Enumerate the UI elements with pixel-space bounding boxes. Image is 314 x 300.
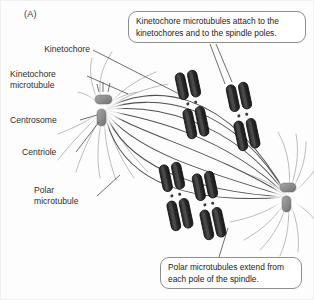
kinetochore-plate: [178, 192, 182, 196]
label-kinetochore-microtubule-line1: Kinetochore: [10, 69, 86, 80]
kinetochore-plate: [203, 203, 207, 207]
figure-panel: (A) Kinetochore Kinetochore microtubule …: [0, 0, 314, 300]
label-centriole-text: Centriole: [22, 147, 56, 157]
callout-top-line2: kinetochores and to the spindle poles.: [136, 28, 298, 40]
chromosome-4: [191, 170, 226, 240]
callout-kinetochore-microtubules: Kinetochore microtubules attach to the k…: [128, 11, 306, 43]
kinetochore-plate: [237, 114, 241, 118]
label-kinetochore-microtubule-line2: microtubule: [10, 80, 86, 91]
callout-top-line1: Kinetochore microtubules attach to the: [136, 16, 298, 28]
leader-callout-top-b: [216, 44, 232, 82]
centriole: [282, 196, 291, 212]
callout-polar-microtubules: Polar microtubules extend from each pole…: [160, 257, 302, 289]
chromosome-3: [158, 161, 193, 231]
label-polar-microtubule-line2: microtubule: [34, 196, 104, 207]
label-kinetochore-text: Kinetochore: [44, 44, 90, 54]
kinetochore-plate: [170, 194, 174, 198]
label-centrosome-text: Centrosome: [10, 115, 57, 125]
centriole: [95, 95, 112, 104]
label-kinetochore-microtubule: Kinetochore microtubule: [10, 69, 86, 90]
label-polar-microtubule-line1: Polar: [34, 185, 104, 196]
kinetochore-plate: [211, 201, 215, 205]
chromosome-1: [174, 69, 209, 139]
label-centriole: Centriole: [22, 147, 56, 158]
panel-letter: (A): [24, 9, 37, 19]
label-kinetochore: Kinetochore: [10, 44, 90, 55]
leader-callout-top: [210, 44, 225, 84]
centrosome-left: [82, 88, 126, 132]
label-centrosome: Centrosome: [10, 115, 57, 126]
kinetochore-plate: [245, 112, 249, 116]
callout-bottom-line2: each pole of the spindle.: [168, 274, 294, 286]
centrosome-right: [268, 177, 308, 217]
label-polar-microtubule: Polar microtubule: [34, 185, 104, 206]
callout-bottom-line1: Polar microtubules extend from: [168, 262, 294, 274]
centriole: [280, 183, 296, 192]
